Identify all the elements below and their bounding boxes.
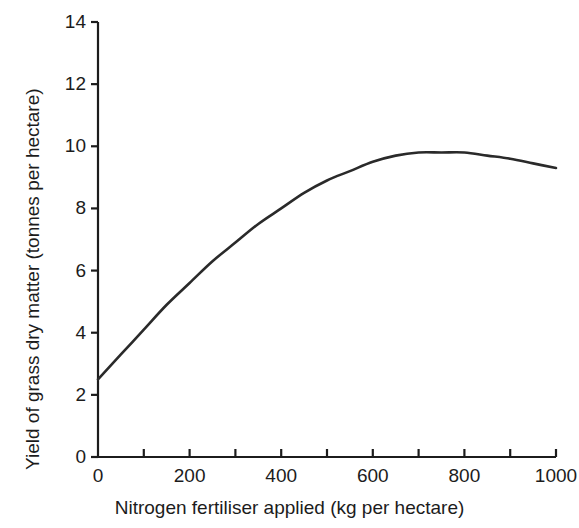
x-axis-tick-label: 0 xyxy=(93,465,104,487)
grass-yield-chart: 02468101214 02004006008001000 Nitrogen f… xyxy=(0,0,579,528)
x-axis-tick-label: 400 xyxy=(265,465,297,487)
plot-area xyxy=(0,0,579,528)
y-axis-tick-label: 14 xyxy=(30,11,86,33)
x-axis-tick-label: 1000 xyxy=(535,465,577,487)
x-axis-tick-label: 800 xyxy=(449,465,481,487)
x-axis-tick-label: 200 xyxy=(174,465,206,487)
x-axis-tick-label: 600 xyxy=(357,465,389,487)
axis-lines xyxy=(98,22,556,457)
yield-response-curve xyxy=(98,152,556,379)
x-axis-ticks xyxy=(144,449,556,457)
y-axis-title: Yield of grass dry matter (tonnes per he… xyxy=(22,88,44,470)
x-axis-title: Nitrogen fertiliser applied (kg per hect… xyxy=(0,497,579,519)
